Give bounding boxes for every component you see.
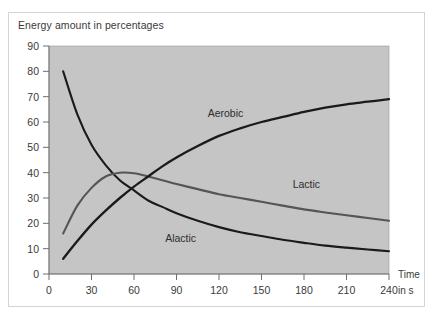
- y-tick-label: 50: [27, 141, 39, 153]
- x-tick-label: 210: [338, 284, 356, 296]
- x-tick-label: 180: [295, 284, 313, 296]
- y-tick-label: 30: [27, 192, 39, 204]
- series-label-alactic: Alactic: [165, 232, 196, 244]
- x-tick-label: 120: [210, 284, 228, 296]
- y-tick-label: 10: [27, 243, 39, 255]
- y-tick-label: 60: [27, 116, 39, 128]
- x-tick-label: 60: [128, 284, 140, 296]
- x-axis-title-line2: in s: [398, 285, 414, 296]
- y-tick-label: 70: [27, 91, 39, 103]
- x-axis-ticks: [49, 274, 389, 280]
- y-tick-label: 80: [27, 65, 39, 77]
- x-axis-title: Time in s: [398, 269, 420, 296]
- chart-figure: Energy amount in percentages 90 80 70 60: [8, 12, 425, 307]
- y-tick-label: 0: [33, 268, 39, 280]
- x-tick-label: 240: [380, 284, 398, 296]
- x-tick-label: 150: [253, 284, 271, 296]
- y-axis-ticks: [43, 46, 49, 274]
- x-axis-title-line1: Time: [398, 269, 420, 280]
- y-tick-label: 20: [27, 217, 39, 229]
- chart-plot: 90 80 70 60 50 40 30 20 10 0 0 30: [9, 13, 424, 306]
- x-tick-label: 0: [46, 284, 52, 296]
- series-label-aerobic: Aerobic: [208, 107, 244, 119]
- x-axis-tick-labels: 0 30 60 90 120 150 180 210 240: [46, 284, 398, 296]
- x-tick-label: 90: [171, 284, 183, 296]
- y-tick-label: 40: [27, 167, 39, 179]
- y-axis-tick-labels: 90 80 70 60 50 40 30 20 10 0: [27, 40, 39, 280]
- x-tick-label: 30: [86, 284, 98, 296]
- series-label-lactic: Lactic: [293, 178, 320, 190]
- plot-background: [49, 46, 389, 274]
- y-tick-label: 90: [27, 40, 39, 52]
